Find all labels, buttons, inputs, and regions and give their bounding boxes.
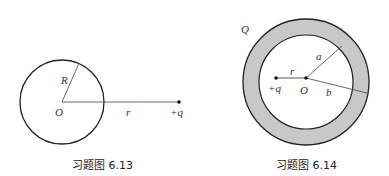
- radius-label: R: [60, 74, 68, 86]
- outer-radius-label: b: [326, 86, 332, 98]
- point-charge-dot: [177, 100, 181, 104]
- diagram-canvas: R O r +q 习题图 6.13 Q a r +q O b 习题图 6.14: [0, 0, 389, 176]
- figure-caption: 习题图 6.14: [276, 159, 337, 172]
- shell-charge-label: Q: [241, 23, 249, 35]
- figure-6-14: Q a r +q O b 习题图 6.14: [241, 19, 369, 172]
- distance-label: r: [290, 65, 295, 77]
- figure-caption: 习题图 6.13: [72, 159, 133, 172]
- distance-label: r: [126, 106, 131, 118]
- center-label: O: [55, 106, 63, 118]
- inner-radius-label: a: [316, 50, 322, 62]
- charge-label: +q: [268, 82, 281, 94]
- center-dot: [304, 76, 308, 80]
- charge-label: +q: [170, 106, 183, 118]
- center-label: O: [300, 84, 308, 96]
- figure-6-13: R O r +q 习题图 6.13: [20, 60, 183, 172]
- point-charge-dot: [274, 76, 278, 80]
